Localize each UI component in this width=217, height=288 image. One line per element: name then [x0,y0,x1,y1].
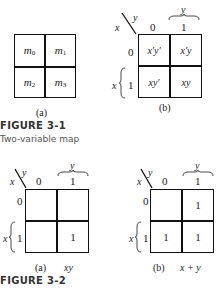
fig31a-cell-m1: m1 [45,34,76,66]
fig32b-row-header-1: 1 [143,233,149,244]
fig32b-cell-00 [150,189,182,221]
fig31b-cell-11: xy [170,66,202,98]
fig31b-row-header-1: 1 [128,80,134,91]
fig31b-col-brace [168,14,200,22]
fig31b-cell-01: x'y [170,34,202,66]
figure-3-1-label: FIGURE 3-1 [0,120,66,131]
fig32b-row-brace [135,221,143,253]
fig32a-corner-diagonal [13,168,29,190]
fig31b-row-brace [119,67,127,99]
fig32a-cell-10 [25,221,57,253]
fig32b-cell-11: 1 [182,221,214,253]
fig32a-expression: xy [64,262,73,273]
fig31a-sublabel: (a) [36,107,47,118]
fig31b-col-header-0: 0 [150,22,156,33]
fig31b-cell-10: xy' [138,66,170,98]
fig32b-col-brace [182,170,214,178]
fig32b-col-header-0: 0 [162,176,168,187]
fig32a-row-header-1: 1 [17,233,23,244]
fig31b-sublabel: (b) [159,102,171,113]
fig32b-row-var: x [137,176,141,187]
fig32a-sublabel: (a) [35,262,46,273]
fig31b-row-brace-var: x [112,80,116,91]
fig32a-row-brace-var: x [3,233,7,244]
figure-3-1-caption: Two-variable map [0,134,79,144]
fig32b-cell-01: 1 [182,189,214,221]
fig32a-cell-00 [25,189,57,221]
fig32a-col-brace [57,170,89,178]
fig32a-col-header-0: 0 [36,176,42,187]
fig32a-row-var: x [10,176,14,187]
fig32a-row-brace [9,221,17,253]
fig32a-cell-01 [57,189,89,221]
fig32b-row-brace-var: x [129,233,133,244]
fig32b-cell-10: 1 [150,221,182,253]
fig32a-col-var: y [22,167,26,178]
fig31a-cell-m3: m3 [45,66,76,98]
fig31a-cell-m0: m0 [14,34,45,66]
fig32a-cell-11: 1 [57,221,89,253]
fig31a-cell-m2: m2 [14,66,45,98]
fig31b-row-var: x [115,22,119,33]
fig32a-row-header-0: 0 [17,196,23,207]
fig32b-row-header-0: 0 [143,196,149,207]
fig31b-col-var: y [133,12,137,23]
fig31b-row-header-0: 0 [128,47,134,58]
fig32b-col-var: y [148,167,152,178]
fig31b-cell-00: x'y' [138,34,170,66]
fig31b-col-header-1: 1 [181,22,187,33]
fig32b-expression: x + y [180,262,201,273]
figure-3-2-label: FIGURE 3-2 [0,275,66,286]
fig32b-sublabel: (b) [153,262,165,273]
